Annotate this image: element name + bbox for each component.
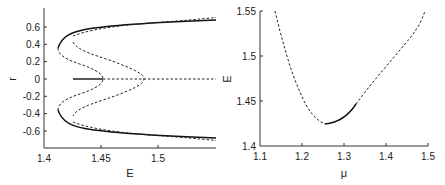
right-ytick-label: 1.5	[242, 51, 256, 62]
right-ytick-label: 1.4	[242, 141, 256, 152]
right-xtick-label: 1.4	[379, 151, 393, 162]
left-ytick-label: 0	[34, 74, 40, 85]
left-ytick-label: 0.4	[26, 39, 40, 50]
right-panel: 1.55 1.5 1.45 1.4 1.1 1.2 1.3 1.4 1.5 μ …	[221, 6, 435, 180]
left-xtick-label: 1.5	[151, 153, 165, 164]
right-xtick-label: 1.5	[421, 151, 435, 162]
right-y-axis-label: E	[221, 75, 233, 82]
right-dashed-left	[275, 11, 325, 124]
right-dashed-right	[356, 11, 425, 104]
left-y-ticks: 0.6 0.4 0.2 0 -0.2 -0.4 -0.6	[23, 22, 47, 137]
right-ytick-label: 1.45	[237, 96, 257, 107]
right-xtick-label: 1.3	[337, 151, 351, 162]
left-xtick-label: 1.4	[37, 153, 51, 164]
left-ytick-label: -0.6	[23, 126, 41, 137]
left-ytick-label: 0.2	[26, 56, 40, 67]
left-panel: 0.6 0.4 0.2 0 -0.2 -0.4 -0.6 1.4 1.45 1.…	[6, 8, 216, 179]
left-xtick-label: 1.45	[91, 153, 111, 164]
right-xtick-label: 1.2	[295, 151, 309, 162]
right-y-ticks: 1.55 1.5 1.45 1.4	[237, 6, 263, 152]
right-solid-segment	[325, 104, 356, 124]
left-y-axis-label: r	[6, 77, 18, 81]
left-curves	[58, 18, 216, 141]
right-ytick-label: 1.55	[237, 6, 257, 17]
left-x-axis-label: E	[126, 167, 133, 179]
right-curves	[275, 11, 425, 124]
right-x-axis-label: μ	[341, 167, 347, 179]
left-ytick-label: -0.2	[23, 91, 41, 102]
left-ytick-label: 0.6	[26, 22, 40, 33]
right-xtick-label: 1.1	[253, 151, 267, 162]
left-ytick-label: -0.4	[23, 108, 41, 119]
figure: 0.6 0.4 0.2 0 -0.2 -0.4 -0.6 1.4 1.45 1.…	[0, 0, 445, 185]
